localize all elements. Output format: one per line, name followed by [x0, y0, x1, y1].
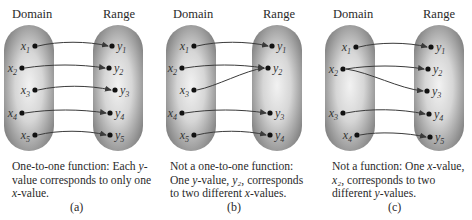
range-point	[267, 132, 272, 137]
domain-oval	[325, 25, 375, 151]
range-point	[107, 110, 112, 115]
range-point	[109, 43, 114, 48]
range-point	[424, 88, 429, 93]
mapping-diagram-c: x1x2x3x4y1y2y3y4y5	[312, 0, 472, 160]
panel-label-c: (c)	[388, 200, 401, 215]
range-point	[112, 87, 117, 92]
mapping-diagram-a: x1x2x3x4x5y1y2y3y4y5	[0, 0, 157, 160]
caption-c: Not a function: One x-value, x₂, corresp…	[332, 160, 472, 201]
domain-point	[191, 43, 196, 48]
domain-point	[340, 110, 345, 115]
diagram-panel-a: x1x2x3x4x5y1y2y3y4y5 Domain Range One-to…	[0, 0, 157, 220]
domain-point	[354, 132, 359, 137]
range-header: Range	[103, 7, 135, 22]
domain-header: Domain	[173, 7, 213, 22]
domain-point	[32, 43, 37, 48]
domain-point	[19, 65, 24, 70]
range-point	[267, 110, 272, 115]
range-point	[427, 134, 432, 139]
range-point	[265, 65, 270, 70]
range-point	[106, 65, 111, 70]
diagram-panel-c: x1x2x3x4y1y2y3y4y5 Domain Range Not a fu…	[312, 0, 469, 220]
range-point	[269, 43, 274, 48]
diagram-panel-b: x1x2x3x4x5y1y2y3y4 Domain Range Not a on…	[155, 0, 312, 220]
panel-label-a: (a)	[70, 200, 83, 215]
domain-point	[191, 132, 196, 137]
range-header: Range	[423, 7, 455, 22]
domain-point	[179, 110, 184, 115]
range-point	[425, 66, 430, 71]
domain-point	[19, 110, 24, 115]
mapping-diagram-b: x1x2x3x4x5y1y2y3y4	[155, 0, 312, 160]
domain-point	[32, 87, 37, 92]
caption-b: Not a one-to-one function: One y-value, …	[170, 160, 315, 201]
caption-a: One-to-one function: Each y-value corres…	[12, 160, 152, 201]
range-point	[426, 111, 431, 116]
range-point	[428, 44, 433, 49]
domain-point	[340, 66, 345, 71]
domain-point	[32, 132, 37, 137]
domain-header: Domain	[12, 7, 52, 22]
range-header: Range	[263, 7, 295, 22]
panel-label-b: (b)	[227, 200, 241, 215]
domain-header: Domain	[333, 7, 373, 22]
domain-point	[179, 65, 184, 70]
domain-point	[191, 87, 196, 92]
domain-point	[353, 44, 358, 49]
range-point	[107, 132, 112, 137]
